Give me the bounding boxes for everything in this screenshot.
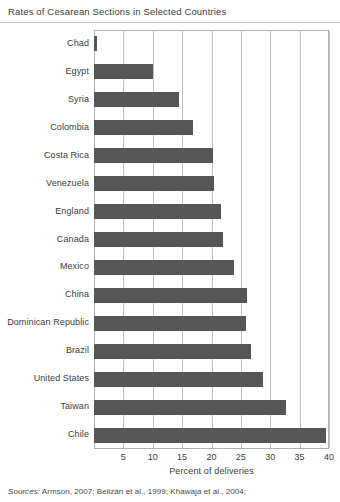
- title-divider: [0, 22, 340, 23]
- category-label-chile: Chile: [0, 429, 89, 439]
- category-label-taiwan: Taiwan: [0, 401, 89, 411]
- category-label-canada: Canada: [0, 234, 89, 244]
- chart-title: Rates of Cesarean Sections in Selected C…: [8, 6, 226, 17]
- x-axis-title: Percent of deliveries: [94, 466, 329, 476]
- category-label-china: China: [0, 289, 89, 299]
- x-tick-25: 25: [236, 452, 246, 462]
- category-label-venezuela: Venezuela: [0, 178, 89, 188]
- category-label-mexico: Mexico: [0, 261, 89, 271]
- bar-row: [94, 92, 329, 107]
- category-label-united-states: United States: [0, 373, 89, 383]
- bar-row: [94, 148, 329, 163]
- bar-row: [94, 176, 329, 191]
- sources-label: Sources:: [8, 487, 40, 496]
- bar-england: [94, 204, 221, 219]
- sources-text: Armson, 2007; Belizán et al., 1999; Khaw…: [42, 487, 246, 496]
- category-label-england: England: [0, 206, 89, 216]
- bar-row: [94, 344, 329, 359]
- bar-chad: [94, 36, 97, 51]
- figure: Rates of Cesarean Sections in Selected C…: [0, 0, 340, 502]
- bar-dominican-republic: [94, 316, 246, 331]
- category-label-dominican-republic: Dominican Republic: [0, 317, 89, 327]
- x-tick-30: 30: [265, 452, 275, 462]
- bar-row: [94, 372, 329, 387]
- bar-egypt: [94, 64, 153, 79]
- sources-note: Sources: Armson, 2007; Belizán et al., 1…: [8, 487, 246, 496]
- x-tick-5: 5: [121, 452, 126, 462]
- bar-row: [94, 64, 329, 79]
- bar-brazil: [94, 344, 251, 359]
- x-tick-10: 10: [148, 452, 158, 462]
- bar-row: [94, 232, 329, 247]
- bars-layer: [94, 30, 329, 449]
- bar-row: [94, 36, 329, 51]
- category-label-chad: Chad: [0, 38, 89, 48]
- category-label-brazil: Brazil: [0, 345, 89, 355]
- bar-row: [94, 120, 329, 135]
- category-label-egypt: Egypt: [0, 66, 89, 76]
- bar-taiwan: [94, 400, 286, 415]
- category-label-syria: Syria: [0, 94, 89, 104]
- bar-mexico: [94, 260, 234, 275]
- bar-row: [94, 316, 329, 331]
- x-tick-35: 35: [295, 452, 305, 462]
- bar-chile: [94, 428, 326, 443]
- gridline-40: [329, 31, 330, 448]
- bar-canada: [94, 232, 223, 247]
- x-axis-tick-labels: 510152025303540: [94, 452, 329, 464]
- bar-row: [94, 288, 329, 303]
- x-tick-20: 20: [206, 452, 216, 462]
- bar-costa-rica: [94, 148, 213, 163]
- bar-row: [94, 260, 329, 275]
- x-tick-15: 15: [177, 452, 187, 462]
- x-tick-40: 40: [324, 452, 334, 462]
- bar-row: [94, 428, 329, 443]
- bar-china: [94, 288, 247, 303]
- category-axis-labels: ChadEgyptSyriaColombiaCosta RicaVenezuel…: [0, 30, 89, 449]
- bar-row: [94, 400, 329, 415]
- bar-row: [94, 204, 329, 219]
- bar-united-states: [94, 372, 263, 387]
- category-label-costa-rica: Costa Rica: [0, 150, 89, 160]
- category-label-colombia: Colombia: [0, 122, 89, 132]
- bar-syria: [94, 92, 179, 107]
- bar-venezuela: [94, 176, 214, 191]
- bar-colombia: [94, 120, 193, 135]
